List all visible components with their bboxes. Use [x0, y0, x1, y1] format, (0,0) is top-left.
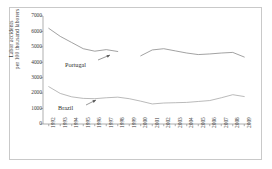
x-tick-label: 1995 [86, 117, 91, 128]
x-tick-label: 1997 [109, 117, 114, 128]
x-tick-label: 2002 [166, 117, 171, 128]
x-tick-label: 1993 [63, 117, 68, 128]
x-tick-label: 2003 [178, 117, 183, 128]
x-tick-label: 1998 [120, 117, 125, 128]
x-tick-label: 2005 [201, 117, 206, 128]
x-tick-label: 1994 [74, 117, 79, 128]
chart-figure: Labor accidents per 100 thousand laborer… [0, 0, 272, 169]
x-tick-label: 2001 [155, 117, 160, 128]
x-tick-label: 2006 [212, 117, 217, 128]
x-tick-label: 2009 [247, 117, 252, 128]
x-tick-label: 1996 [97, 117, 102, 128]
x-tick-label: 2000 [143, 117, 148, 128]
x-tick-label: 2007 [224, 117, 229, 128]
plot-area: Labor accidents per 100 thousand laborer… [0, 0, 272, 169]
series-label-portugal: Portugal [65, 61, 86, 68]
x-axis-tick-labels: 1992199319941995199619971998199920002001… [0, 0, 272, 169]
x-tick-label: 2004 [189, 117, 194, 128]
series-label-brazil: Brazil [58, 104, 73, 111]
x-tick-label: 1999 [132, 117, 137, 128]
x-tick-label: 1992 [51, 117, 56, 128]
x-tick-label: 2008 [235, 117, 240, 128]
